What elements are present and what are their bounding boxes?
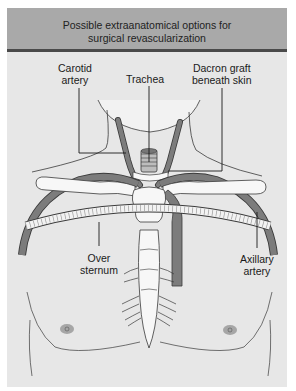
right-nipple xyxy=(223,325,237,335)
left-torso-side xyxy=(29,320,32,376)
label-axillary-line-1: Axillary xyxy=(240,253,274,265)
label-sternum-line-2: sternum xyxy=(80,264,118,276)
label-dacron-line-1: Dacron graft xyxy=(192,62,252,74)
label-trachea-line-1: Trachea xyxy=(126,73,164,85)
label-dacron-line-2: beneath skin xyxy=(192,74,252,86)
label-axillary-line-2: artery xyxy=(240,265,274,277)
label-carotid-line-2: artery xyxy=(58,74,92,86)
label-carotid-artery: Carotid artery xyxy=(58,62,92,86)
right-pectoral-outline xyxy=(160,292,272,351)
label-over-sternum: Over sternum xyxy=(80,252,118,276)
neck-left-outline xyxy=(32,110,108,172)
label-dacron-graft: Dacron graft beneath skin xyxy=(192,62,252,86)
neck-right-outline xyxy=(189,112,262,176)
right-torso-side xyxy=(268,320,271,376)
label-sternum-line-1: Over xyxy=(80,252,118,264)
label-axillary-artery: Axillary artery xyxy=(240,253,274,277)
anatomy-illustration xyxy=(0,0,296,391)
right-clavicle xyxy=(163,180,266,196)
label-trachea: Trachea xyxy=(126,73,164,85)
left-pectoral-outline xyxy=(27,292,140,351)
left-nipple xyxy=(60,324,74,334)
label-carotid-line-1: Carotid xyxy=(58,62,92,74)
left-rib-lines xyxy=(122,268,141,326)
